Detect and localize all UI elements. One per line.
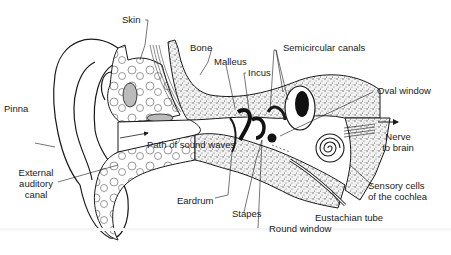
label-sensory-line2: of the cochlea xyxy=(368,191,427,202)
label-nerve-line2: to brain xyxy=(381,142,415,153)
label-eustachian-tube: Eustachian tube xyxy=(315,212,383,223)
stapes-shape xyxy=(268,134,277,143)
label-eac-line1: External xyxy=(14,167,58,178)
ear-anatomy-drawing xyxy=(0,0,451,255)
label-eac-line2: auditory xyxy=(14,178,58,189)
label-pinna: Pinna xyxy=(4,103,28,114)
label-nerve-to-brain: Nerve to brain xyxy=(381,131,415,153)
label-nerve-line1: Nerve xyxy=(381,131,415,142)
label-sensory-line1: Sensory cells xyxy=(368,180,427,191)
label-eac-line3: canal xyxy=(14,189,58,200)
label-semicircular-canals: Semicircular canals xyxy=(283,42,365,53)
scan-artifact xyxy=(0,228,451,231)
label-round-window: Round window xyxy=(269,223,331,234)
tissue-lower xyxy=(94,135,195,240)
label-path-of-sound-waves: Path of sound waves xyxy=(147,139,235,150)
incus-shape xyxy=(252,118,264,138)
label-skin: Skin xyxy=(122,14,140,25)
label-oval-window: Oval window xyxy=(377,85,431,96)
label-incus: Incus xyxy=(248,67,271,78)
cochlea-shape xyxy=(316,134,344,162)
label-stapes: Stapes xyxy=(232,208,262,219)
label-malleus: Malleus xyxy=(214,56,247,67)
label-bone: Bone xyxy=(190,42,212,53)
label-sensory-cells: Sensory cells of the cochlea xyxy=(368,180,427,202)
label-external-auditory-canal: External auditory canal xyxy=(14,167,58,200)
label-eardrum: Eardrum xyxy=(177,195,213,206)
